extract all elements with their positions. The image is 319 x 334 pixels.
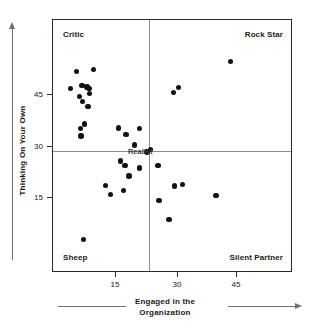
quadrant-label-silent-partner: Silent Partner — [230, 253, 283, 262]
data-point — [81, 237, 86, 242]
data-point — [180, 182, 185, 187]
x-axis-line-right — [228, 306, 296, 307]
data-point — [176, 85, 181, 90]
data-point — [68, 86, 73, 91]
data-point — [228, 59, 233, 64]
data-point — [213, 193, 218, 198]
data-point — [85, 104, 90, 109]
plot-area: Realist — [53, 20, 291, 271]
data-point — [156, 198, 161, 203]
data-point — [103, 183, 108, 188]
data-point — [172, 183, 177, 188]
quadrant-label-rock-star: Rock Star — [245, 30, 283, 39]
x-axis-title: Engaged in the Organization — [110, 296, 220, 318]
x-tick-label-45: 45 — [232, 280, 241, 289]
y-tick-label-45: 45 — [21, 90, 43, 99]
scatter-chart-root: Thinking On Your Own 45 30 15 15 30 45 R… — [0, 0, 319, 334]
data-point — [74, 69, 79, 74]
x-tick-label-30: 30 — [173, 280, 182, 289]
y-tick-label-15: 15 — [21, 193, 43, 202]
data-point — [78, 126, 83, 131]
data-point — [137, 126, 142, 131]
data-point — [116, 125, 121, 130]
y-axis-arrow-line — [12, 28, 13, 260]
data-point — [80, 99, 85, 104]
quadrant-divider-horizontal — [53, 151, 291, 152]
y-tick-label-30: 30 — [21, 141, 43, 150]
data-point — [171, 90, 176, 95]
data-point — [91, 67, 96, 72]
quadrant-label-critic: Critic — [63, 30, 84, 39]
quadrant-label-sheep: Sheep — [63, 253, 88, 262]
x-axis-arrow-icon — [295, 303, 302, 309]
data-point — [121, 188, 126, 193]
data-point — [122, 163, 127, 168]
data-point — [137, 165, 142, 170]
data-point — [108, 192, 113, 197]
data-point — [123, 132, 128, 137]
quadrant-label-center: Realist — [128, 147, 153, 156]
data-point — [78, 133, 83, 138]
data-point — [87, 91, 92, 96]
data-point — [126, 173, 131, 178]
plot-frame: Realist Critic Rock Star Sheep Silent Pa… — [52, 19, 292, 272]
x-tick-label-15: 15 — [111, 280, 120, 289]
quadrant-divider-vertical — [149, 20, 150, 271]
data-point — [155, 163, 160, 168]
data-point — [166, 217, 171, 222]
